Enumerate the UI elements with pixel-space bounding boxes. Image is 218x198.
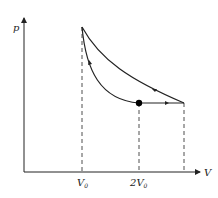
upper-curve (82, 27, 184, 103)
arrow-isobaric-icon (165, 101, 169, 105)
x-axis-label: V (204, 167, 213, 178)
y-axis-label: p (13, 22, 20, 33)
lower-curve (82, 27, 139, 103)
state-point-dot (136, 100, 142, 106)
pv-diagram: p V V0 2V0 (0, 0, 218, 198)
tick-label-v0: V0 (77, 177, 88, 189)
tick-label-2v0: 2V0 (129, 177, 148, 189)
